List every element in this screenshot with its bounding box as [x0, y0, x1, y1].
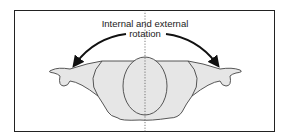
caption-line-2: rotation	[0, 29, 290, 39]
